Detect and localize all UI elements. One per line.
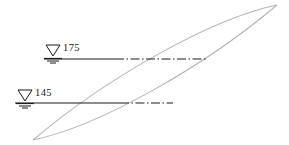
diagram-canvas: 175 145 [0, 0, 289, 145]
lens-lower-curve [33, 5, 277, 140]
lens-upper-curve [33, 5, 277, 140]
diagram-svg [0, 0, 289, 145]
water-table-triangle-icon-lower [18, 90, 32, 101]
water-level-label-145: 145 [35, 88, 52, 99]
water-table-triangle-icon-upper [46, 45, 60, 56]
water-level-label-175: 175 [63, 43, 80, 54]
lens-shape [33, 5, 277, 140]
